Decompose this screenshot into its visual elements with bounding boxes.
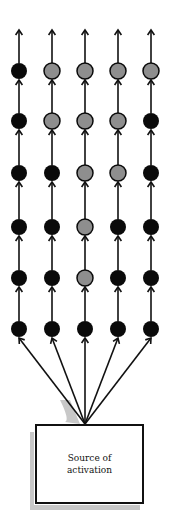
node-black bbox=[143, 113, 159, 129]
node-gray bbox=[110, 63, 126, 79]
node-gray bbox=[77, 113, 93, 129]
node-black bbox=[44, 219, 60, 235]
node-gray bbox=[44, 63, 60, 79]
node-gray bbox=[77, 63, 93, 79]
node-black bbox=[110, 219, 126, 235]
source-box-label: Source of activation bbox=[36, 425, 143, 503]
node-gray bbox=[44, 113, 60, 129]
node-black bbox=[44, 165, 60, 181]
node-gray bbox=[77, 165, 93, 181]
node-black bbox=[44, 321, 60, 337]
node-black bbox=[44, 270, 60, 286]
node-black bbox=[11, 270, 27, 286]
node-gray bbox=[110, 165, 126, 181]
node-gray bbox=[77, 219, 93, 235]
node-black bbox=[143, 321, 159, 337]
node-black bbox=[110, 270, 126, 286]
node-black bbox=[11, 219, 27, 235]
source-label-line1: Source of bbox=[68, 452, 112, 464]
node-gray bbox=[110, 113, 126, 129]
node-black bbox=[77, 321, 93, 337]
node-black bbox=[143, 165, 159, 181]
node-black bbox=[11, 63, 27, 79]
node-gray bbox=[77, 270, 93, 286]
source-label-line2: activation bbox=[67, 464, 112, 476]
node-black bbox=[110, 321, 126, 337]
node-black bbox=[143, 270, 159, 286]
node-black bbox=[143, 219, 159, 235]
node-black bbox=[11, 113, 27, 129]
node-black bbox=[11, 165, 27, 181]
node-black bbox=[11, 321, 27, 337]
node-gray bbox=[143, 63, 159, 79]
